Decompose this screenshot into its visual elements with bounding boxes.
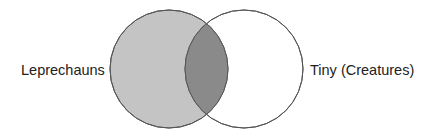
label-tiny-creatures: Tiny (Creatures)	[310, 62, 414, 78]
intersection-region	[185, 10, 303, 128]
label-leprechauns: Leprechauns	[21, 62, 105, 78]
venn-diagram: Leprechauns Tiny (Creatures)	[0, 0, 426, 139]
